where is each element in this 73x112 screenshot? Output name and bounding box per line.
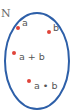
- element-dot-a: [16, 26, 20, 30]
- element-dot-b: [47, 30, 51, 34]
- element-dot-a-times-b: [27, 79, 31, 83]
- element-label-a: a: [22, 17, 28, 28]
- element-label-a-plus-b: a + b: [19, 51, 45, 62]
- element-label-a-times-b: a • b: [34, 80, 58, 91]
- set-label: N: [1, 7, 11, 20]
- set-diagram: N a b a + b a • b: [0, 0, 73, 112]
- element-label-b: b: [53, 22, 59, 33]
- element-dot-a-plus-b: [12, 51, 16, 55]
